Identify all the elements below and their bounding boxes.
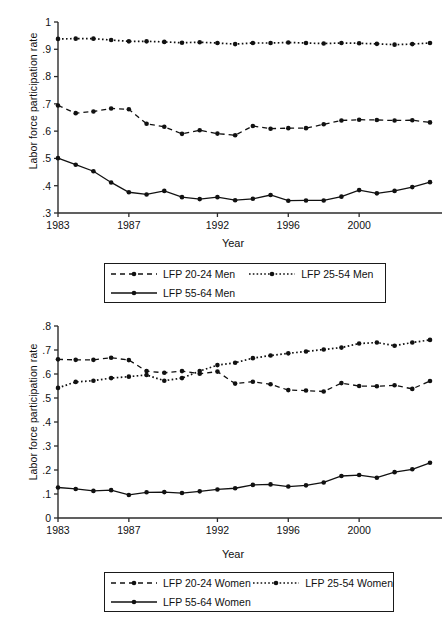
- dashed-line-sample-icon: [111, 269, 157, 279]
- solid-line-sample-icon: [111, 597, 157, 607]
- solid-line-sample-icon: [111, 288, 157, 298]
- svg-text:1983: 1983: [46, 219, 70, 231]
- svg-text:1992: 1992: [206, 524, 230, 536]
- legend-label: LFP 25-54 Women: [305, 577, 393, 589]
- svg-text:2000: 2000: [347, 524, 371, 536]
- svg-text:1992: 1992: [206, 219, 230, 231]
- svg-text:.8: .8: [42, 70, 51, 82]
- legend-women: LFP 20-24 Women LFP 25-54 Women LFP 55-6…: [104, 572, 394, 612]
- legend-row: LFP 20-24 Women LFP 25-54 Women: [105, 573, 393, 592]
- svg-text:.6: .6: [42, 368, 51, 380]
- svg-text:.7: .7: [42, 98, 51, 110]
- legend-label: LFP 20-24 Men: [163, 268, 235, 280]
- legend-row: LFP 55-64 Men: [105, 283, 385, 302]
- svg-text:.2: .2: [42, 464, 51, 476]
- svg-text:.3: .3: [42, 207, 51, 219]
- chart-svg-men: .3.4.5.6.7.8.9119831987199219962000: [0, 0, 446, 250]
- svg-text:.8: .8: [42, 320, 51, 332]
- plot-area-women: Labor force participation rate 0.1.2.3.4…: [0, 311, 446, 561]
- svg-text:1996: 1996: [277, 219, 301, 231]
- svg-text:2000: 2000: [347, 219, 371, 231]
- svg-text:1983: 1983: [46, 524, 70, 536]
- chart-svg-women: 0.1.2.3.4.5.6.7.819831987199219962000: [0, 311, 446, 561]
- dashed-line-sample-icon: [111, 578, 157, 588]
- svg-text:.4: .4: [42, 416, 51, 428]
- svg-text:.1: .1: [42, 488, 51, 500]
- legend-men: LFP 20-24 Men LFP 25-54 Men LFP 55-64 Me…: [104, 263, 386, 303]
- chart-panel-men: Labor force participation rate .3.4.5.6.…: [0, 0, 446, 311]
- plot-area-men: Labor force participation rate .3.4.5.6.…: [0, 0, 446, 250]
- svg-text:.7: .7: [42, 344, 51, 356]
- dotted-line-sample-icon: [253, 578, 299, 588]
- legend-label: LFP 25-54 Men: [301, 268, 373, 280]
- legend-label: LFP 20-24 Women: [163, 577, 251, 589]
- svg-text:.6: .6: [42, 125, 51, 137]
- dotted-line-sample-icon: [249, 269, 295, 279]
- legend-entry-women-1: LFP 25-54 Women: [253, 577, 393, 589]
- legend-entry-women-0: LFP 20-24 Women: [111, 577, 251, 589]
- svg-text:.5: .5: [42, 152, 51, 164]
- svg-text:1996: 1996: [277, 524, 301, 536]
- svg-text:.3: .3: [42, 440, 51, 452]
- legend-entry-women-2: LFP 55-64 Women: [111, 596, 251, 608]
- x-axis-label-women: Year: [10, 548, 446, 560]
- legend-row: LFP 55-64 Women: [105, 592, 393, 611]
- x-axis-label-men: Year: [10, 237, 446, 249]
- svg-text:0: 0: [45, 512, 51, 524]
- legend-row: LFP 20-24 Men LFP 25-54 Men: [105, 264, 385, 283]
- svg-text:.4: .4: [42, 180, 51, 192]
- svg-text:1987: 1987: [117, 524, 141, 536]
- svg-text:1: 1: [45, 16, 51, 28]
- legend-entry-men-2: LFP 55-64 Men: [111, 287, 235, 299]
- svg-text:.9: .9: [42, 43, 51, 55]
- legend-entry-men-0: LFP 20-24 Men: [111, 268, 235, 280]
- legend-label: LFP 55-64 Men: [163, 287, 235, 299]
- svg-text:.5: .5: [42, 392, 51, 404]
- svg-text:1987: 1987: [117, 219, 141, 231]
- legend-entry-men-1: LFP 25-54 Men: [249, 268, 373, 280]
- legend-label: LFP 55-64 Women: [163, 596, 251, 608]
